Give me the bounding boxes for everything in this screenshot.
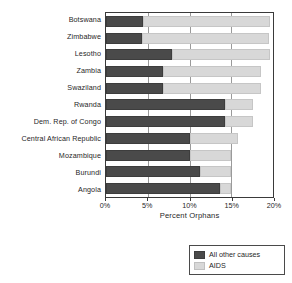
bar-row: [106, 116, 273, 127]
bar-row: [106, 16, 273, 27]
light-gray-swatch: [194, 262, 205, 270]
bar-series-container: [106, 13, 273, 197]
y-axis-label: Zambia: [76, 67, 103, 75]
bar-segment-all-other-causes: [106, 66, 163, 77]
bar-row: [106, 99, 273, 110]
orphans-bar-chart: BotswanaZimbabweLesothoZambiaSwazilandRw…: [0, 0, 292, 283]
y-axis-label: Swaziland: [67, 84, 103, 92]
bar-row: [106, 183, 273, 194]
bar-segment-aids: [200, 166, 232, 177]
bar-segment-all-other-causes: [106, 183, 220, 194]
x-axis-title: Percent Orphans: [105, 211, 274, 220]
bar-segment-aids: [190, 150, 232, 161]
dark-gray-swatch: [194, 251, 205, 259]
y-axis-label: Lesotho: [75, 50, 103, 58]
bar-segment-aids: [163, 83, 262, 94]
bar-segment-all-other-causes: [106, 150, 190, 161]
y-axis-label: Burundi: [76, 169, 103, 177]
bar-row: [106, 49, 273, 60]
bar-segment-aids: [163, 66, 262, 77]
x-tick-label: 0%: [100, 201, 110, 210]
bar-segment-aids: [143, 16, 270, 27]
plot-area: [105, 12, 274, 198]
legend-item-label: All other causes: [209, 250, 260, 259]
bar-segment-all-other-causes: [106, 116, 225, 127]
x-tick-label: 5%: [142, 201, 152, 210]
bar-segment-aids: [220, 183, 232, 194]
y-axis-label: Dem. Rep. of Congo: [34, 118, 103, 126]
x-tick-label: 20%: [267, 201, 281, 210]
y-axis-label: Zimbabwe: [67, 33, 103, 41]
bar-segment-aids: [190, 133, 238, 144]
bar-row: [106, 133, 273, 144]
y-axis-label: Central African Republic: [21, 135, 103, 143]
bar-segment-aids: [142, 33, 269, 44]
bar-segment-aids: [225, 116, 253, 127]
y-axis-label: Angola: [78, 186, 103, 194]
x-tick-label: 15%: [225, 201, 239, 210]
legend-item-label: AIDS: [209, 261, 226, 270]
bar-segment-all-other-causes: [106, 33, 142, 44]
y-axis-category-labels: BotswanaZimbabweLesothoZambiaSwazilandRw…: [0, 12, 103, 198]
bar-segment-all-other-causes: [106, 49, 172, 60]
x-tick-label: 10%: [182, 201, 196, 210]
bar-segment-all-other-causes: [106, 83, 163, 94]
bar-segment-all-other-causes: [106, 16, 143, 27]
bar-row: [106, 166, 273, 177]
y-axis-label: Mozambique: [59, 152, 103, 160]
bar-segment-all-other-causes: [106, 99, 225, 110]
x-axis-ticks: 0%5%10%15%20%: [105, 198, 274, 210]
legend-item: All other causes: [194, 249, 280, 260]
legend-item: AIDS: [194, 260, 280, 271]
bar-row: [106, 150, 273, 161]
bar-segment-all-other-causes: [106, 166, 200, 177]
bar-row: [106, 66, 273, 77]
bar-row: [106, 83, 273, 94]
bar-segment-all-other-causes: [106, 133, 190, 144]
bar-segment-aids: [172, 49, 271, 60]
chart-legend: All other causesAIDS: [189, 245, 285, 275]
y-axis-label: Rwanda: [74, 101, 103, 109]
bar-row: [106, 33, 273, 44]
y-axis-label: Botswana: [69, 16, 103, 24]
bar-segment-aids: [225, 99, 253, 110]
